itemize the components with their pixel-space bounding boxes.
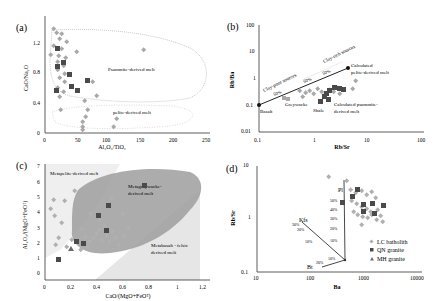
greywacke-label: Greywacke — [285, 102, 309, 107]
panel-a-ytick: 0.8 — [33, 69, 40, 75]
panel-c-ylabel: Al₂O₃/(MgO+FeOᵀ) — [22, 201, 29, 250]
bt-vector — [322, 260, 345, 267]
psammite-region-outline — [50, 29, 207, 102]
panel-a-ytick: 0 — [37, 130, 40, 136]
pl-tick-label: 20% — [330, 226, 338, 231]
metapelite-region-label: Metapelite-derived melt — [50, 171, 99, 176]
panel-c-ytick: 7 — [37, 163, 40, 169]
panel-b-ytick: 0.01 — [241, 128, 251, 134]
bt-tick-label: 10% — [328, 256, 336, 261]
pelite-region-label: pelite-derived melt — [113, 110, 152, 115]
mix-pct-label: 50% — [322, 68, 332, 76]
vector-origin — [344, 259, 346, 261]
chart-panel-d: (d) 10 1 0.1 10 100 1000 10000 Ba Rb/Sr … — [224, 150, 447, 301]
kfs-tick-label: 10% — [305, 239, 313, 244]
panel-d-xtick: 10 — [253, 275, 259, 281]
legend-lc-marker — [369, 239, 373, 243]
panel-a-xtick: 100 — [102, 137, 111, 143]
panel-c-xtick: 0.2 — [67, 284, 74, 290]
pelite-melt-label: Calculated — [351, 63, 373, 68]
metabasalt-region-label-2: derived melt — [151, 250, 177, 255]
panel-c-label: (c) — [16, 160, 27, 172]
panel-c-ytick: 1 — [37, 255, 40, 261]
panel-a-lc-points — [48, 26, 146, 132]
chart-panel-b: (b) 100 10 1 0.1 0.01 0.1 1 10 100 Rb/Sr… — [224, 0, 447, 150]
panel-b-ytick: 10 — [249, 48, 255, 54]
metagreywacke-region-label-2: derived melt — [128, 191, 154, 196]
panel-a-xtick: 50 — [75, 137, 81, 143]
panel-d-xlabel: Ba — [333, 284, 340, 290]
panel-b-ytick: 100 — [246, 22, 255, 28]
legend-mh-label: MH granite — [377, 256, 405, 262]
panel-d-ylabel: Rb/Sr — [230, 210, 236, 226]
panel-c-xtick: 1 — [176, 284, 179, 290]
panel-c-ytick: 4 — [37, 209, 40, 215]
panel-b-xtick: 0.1 — [254, 137, 261, 143]
legend-qn-marker — [370, 248, 374, 252]
clay-rich-label: Clay-rich sources — [322, 44, 356, 64]
panel-a-ytick: 0.4 — [33, 100, 40, 106]
panel-a-ytick: 1.2 — [33, 40, 40, 46]
legend-lc-label: LC batholith — [377, 239, 408, 245]
psammite-melt-label: Calculated psammite- — [334, 102, 378, 107]
panel-b-lc-points — [282, 78, 358, 101]
legend-qn-label: QN granite — [377, 247, 404, 253]
panel-c-xtick: 0.4 — [93, 284, 100, 290]
panel-d-ytick: 10 — [243, 162, 249, 168]
psammite-melt-label-2: derived melt — [334, 109, 360, 114]
psammite-region-label: Psammite-derived melt — [108, 67, 155, 72]
pelite-endmember-point — [346, 66, 350, 70]
basalt-endmember-point — [257, 103, 261, 107]
panel-d-ytick: 0.1 — [241, 269, 248, 275]
kfs-label: Kfs — [299, 217, 308, 223]
panel-c-xtick: 0.6 — [119, 284, 126, 290]
panel-c-xtick: 1.2 — [199, 284, 206, 290]
panel-b-ylabel: Rb/Ba — [229, 72, 235, 88]
basalt-label: Basalt — [260, 109, 273, 114]
legend: LC batholith QN granite MH granite — [369, 239, 407, 262]
bt-label: Bt — [307, 264, 313, 270]
panel-a-xtick: 200 — [169, 137, 178, 143]
panel-b-ytick: 0.1 — [246, 102, 253, 108]
panel-c-ytick: 3 — [37, 225, 40, 231]
panel-c-xtick: 0 — [43, 284, 46, 290]
pl-tick-label: 50% — [330, 198, 338, 203]
panel-c-ytick: 2 — [37, 240, 40, 246]
chart-panel-c: (c) 7 6 5 4 3 2 1 0 0 0.2 0.4 0.6 0.8 1 … — [0, 150, 224, 301]
panel-c-xlabel: CaO/(MgO+FeOᵀ) — [105, 293, 150, 300]
panel-a-label: (a) — [16, 22, 27, 34]
pl-tick-label: 40% — [330, 207, 338, 212]
panel-d-xtick: 10000 — [410, 275, 424, 281]
panel-c-xtick: 0.8 — [145, 284, 152, 290]
panel-a-xtick: 150 — [136, 137, 145, 143]
pl-tick-label: 10% — [330, 238, 338, 243]
panel-d-xtick: 1000 — [358, 275, 369, 281]
panel-a-xtick: 250 — [202, 137, 211, 143]
panel-d-xtick: 100 — [306, 275, 315, 281]
pl-label: Pl — [338, 187, 343, 193]
bt-tick-label: 20% — [316, 260, 324, 265]
panel-c-ytick: 0 — [37, 270, 40, 276]
pl-vector — [344, 180, 345, 260]
panel-b-ytick: 1 — [253, 75, 256, 81]
panel-a-xtick: 0 — [43, 137, 46, 143]
panel-c-ytick: 5 — [37, 194, 40, 200]
panel-b-xtick: 1 — [313, 137, 316, 143]
pelite-region-outline — [52, 105, 193, 129]
panel-b-label: (b) — [227, 21, 239, 33]
pl-tick-label: 30% — [330, 216, 338, 221]
panel-c-ytick: 6 — [37, 179, 40, 185]
panel-d-ytick: 1 — [248, 214, 251, 220]
mix-pct-label: 60% — [303, 76, 313, 84]
metabasalt-region-label: Metabasalt - felsic — [151, 243, 189, 248]
panel-b-xtick: 10 — [364, 137, 370, 143]
chart-panel-a: (a) 1.2 0.8 0.4 0 0 50 100 150 200 250 A… — [0, 0, 224, 150]
panel-b-xtick: 100 — [417, 137, 426, 143]
pelite-melt-label-2: pelite-derived melt — [351, 70, 390, 75]
kfs-tick-label: 20% — [297, 227, 305, 232]
panel-a-ylabel: CaO/Na₂O — [23, 64, 29, 91]
panel-d-label: (d) — [226, 163, 238, 175]
legend-mh-marker — [370, 257, 374, 261]
shale-label: Shale — [313, 108, 325, 113]
